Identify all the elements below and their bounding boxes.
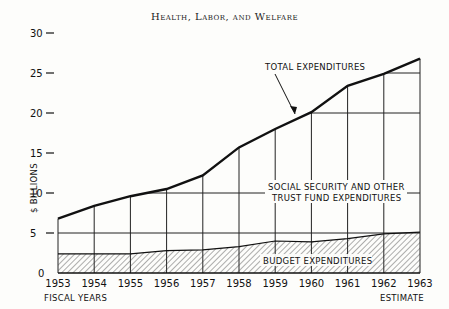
y-tick: 15 <box>30 148 43 159</box>
x-axis-label: FISCAL YEARS <box>44 293 107 303</box>
x-tick: 1954 <box>81 278 106 289</box>
y-tick: 20 <box>30 108 43 119</box>
x-tick: 1960 <box>299 278 324 289</box>
x-tick: 1958 <box>226 278 251 289</box>
arrow-head-icon <box>290 106 297 114</box>
x-tick: 1957 <box>190 278 215 289</box>
x-tick: 1956 <box>154 278 179 289</box>
x-tick: 1962 <box>371 278 396 289</box>
y-tick: 25 <box>30 68 43 79</box>
x-tick: 1953 <box>45 278 70 289</box>
y-tick: 5 <box>30 228 36 239</box>
expenditure-chart: 0510152025301953195419551956195719581959… <box>0 0 449 309</box>
y-axis-label: $ BILLIONS <box>29 163 39 213</box>
y-tick: 0 <box>38 268 44 279</box>
label-trust-2: TRUST FUND EXPENDITURES <box>271 193 401 203</box>
y-tick: 30 <box>30 28 43 39</box>
estimate-label: ESTIMATE <box>380 293 424 303</box>
x-tick: 1959 <box>262 278 287 289</box>
label-budget: BUDGET EXPENDITURES <box>263 256 372 266</box>
x-tick: 1961 <box>335 278 360 289</box>
x-tick: 1963 <box>407 278 432 289</box>
label-trust-1: SOCIAL SECURITY AND OTHER <box>268 182 405 192</box>
x-tick: 1955 <box>118 278 143 289</box>
label-total: TOTAL EXPENDITURES <box>264 62 365 72</box>
